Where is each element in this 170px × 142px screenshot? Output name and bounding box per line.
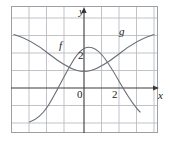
x-axis-tick-label-2: 2 xyxy=(112,89,118,100)
graph-canvas xyxy=(0,0,170,142)
y-axis-label: y xyxy=(79,6,84,17)
curve-label-f: f xyxy=(59,40,62,51)
curve-label-g: g xyxy=(119,26,125,37)
x-axis-label: x xyxy=(158,90,163,101)
graph-figure: y x 2 0 2 f g xyxy=(0,0,170,142)
origin-label: 0 xyxy=(77,89,83,100)
y-axis-tick-label-2: 2 xyxy=(78,50,84,61)
